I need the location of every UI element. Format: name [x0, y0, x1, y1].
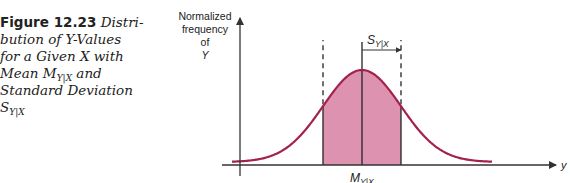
x-axis-label: y: [560, 159, 568, 171]
normal-distribution-chart: Normalized frequency of Y y MY|X SY|X: [0, 0, 570, 183]
mean-label-subscript: Y|X: [360, 177, 374, 183]
mean-label: MY|X: [350, 171, 374, 183]
y-axis-label-line-4: Y: [201, 49, 209, 61]
sd-label: SY|X: [367, 33, 389, 49]
y-axis-label-line-2: frequency: [182, 23, 229, 35]
y-axis-label-line-3: of: [201, 36, 210, 48]
y-axis-label-line-1: Normalized: [178, 10, 231, 22]
mean-label-symbol: M: [350, 171, 360, 183]
sd-label-subscript: Y|X: [375, 39, 389, 49]
sd-label-symbol: S: [367, 33, 375, 47]
